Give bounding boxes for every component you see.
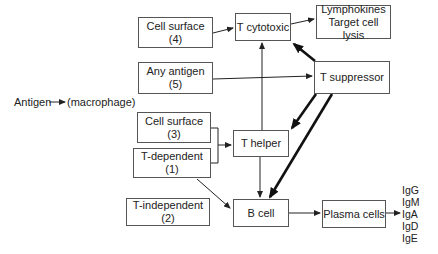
node-plasma-cells: Plasma cells — [322, 200, 386, 228]
node-label: T-independent (2) — [127, 199, 209, 225]
node-label: T-dependent (1) — [134, 150, 210, 176]
node-label: Cell surface (4) — [139, 20, 212, 46]
node-label: T helper — [241, 137, 281, 150]
node-cell-surface-3: Cell surface (3) — [137, 112, 211, 143]
immunoglobulin-list: IgG IgM IgA IgD IgE — [402, 184, 420, 244]
ig-item: IgD — [402, 220, 420, 232]
ig-item: IgE — [402, 232, 420, 244]
node-label: Cell surface (3) — [138, 115, 210, 141]
node-t-dependent-1: T-dependent (1) — [133, 148, 211, 178]
node-label: T suppressor — [320, 71, 384, 84]
node-t-independent-2: T-independent (2) — [126, 198, 210, 226]
ig-item: IgG — [402, 184, 420, 196]
antigen-label: Antigen — [14, 96, 51, 108]
ig-item: IgM — [402, 196, 420, 208]
node-any-antigen-5: Any antigen (5) — [138, 62, 213, 94]
node-b-cell: B cell — [233, 199, 289, 227]
node-lymphokines: Lymphokines Target cell lysis — [316, 5, 391, 39]
node-label: Plasma cells — [323, 208, 385, 221]
ig-item: IgA — [402, 208, 420, 220]
node-label-line1: Lymphokines — [321, 3, 385, 16]
node-t-suppressor: T suppressor — [314, 61, 390, 94]
node-t-cytotoxic: T cytotoxic — [235, 13, 291, 41]
node-label: Any antigen (5) — [139, 65, 212, 91]
node-label: T cytotoxic — [237, 21, 289, 34]
node-label-line2: Target cell lysis — [317, 16, 390, 42]
macrophage-label: (macrophage) — [67, 96, 135, 108]
node-label: B cell — [248, 207, 275, 220]
node-cell-surface-4: Cell surface (4) — [138, 17, 213, 48]
node-t-helper: T helper — [233, 130, 289, 157]
